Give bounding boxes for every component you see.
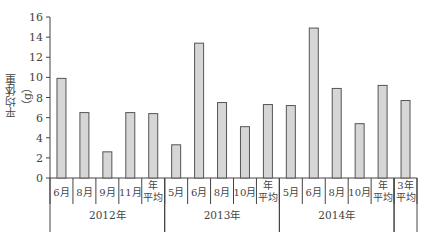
bar-chart: 02468101214166月8月9月11月年平均5月6月8月10月年平均5月6… [0, 0, 424, 241]
y-tick-label: 16 [29, 11, 43, 24]
x-category-label: 10月 [348, 187, 371, 198]
x-category-label: 5月 [283, 187, 299, 198]
x-category-label: 6月 [306, 187, 322, 198]
x-category-label: 8月 [329, 187, 345, 198]
x-group-label: 2013年 [204, 209, 241, 221]
bar [57, 78, 66, 178]
chart-canvas: 02468101214166月8月9月11月年平均5月6月8月10月年平均5月6… [0, 0, 424, 241]
x-category-label: 平均 [143, 192, 163, 203]
x-group-label: 2014年 [318, 209, 355, 221]
bar [240, 127, 249, 178]
y-tick-label: 14 [29, 31, 43, 44]
bar [401, 101, 410, 178]
x-category-label: 年 [263, 179, 273, 191]
bar [126, 113, 135, 178]
y-tick-label: 6 [36, 112, 43, 125]
x-category-label: 6月 [53, 187, 69, 198]
bar [263, 105, 272, 178]
bar [80, 113, 89, 178]
x-category-label: 平均 [258, 192, 278, 203]
x-category-label: 8月 [214, 187, 230, 198]
bar [355, 124, 364, 178]
x-category-label: 11月 [119, 187, 142, 198]
x-category-label: 6月 [191, 187, 207, 198]
x-category-label: 9月 [99, 187, 115, 198]
y-tick-label: 2 [36, 152, 43, 165]
x-category-label: 3年 [397, 179, 413, 191]
y-tick-label: 4 [36, 132, 43, 145]
y-tick-label: 0 [36, 172, 43, 185]
bar [218, 103, 227, 178]
x-category-label: 10月 [234, 187, 257, 198]
x-category-label: 5月 [168, 187, 184, 198]
y-axis-label: 平均体重（g） [4, 66, 32, 126]
bar [172, 145, 181, 178]
x-category-label: 平均 [373, 192, 393, 203]
bar [332, 88, 341, 178]
y-tick-label: 12 [29, 51, 43, 64]
x-category-label: 平均 [396, 192, 416, 203]
x-category-label: 年 [148, 179, 158, 191]
bar [378, 85, 387, 178]
x-category-label: 8月 [76, 187, 92, 198]
bar [149, 114, 158, 178]
x-group-label: 2012年 [89, 209, 126, 221]
x-category-label: 年 [378, 179, 388, 191]
bar [195, 43, 204, 178]
bar [103, 152, 112, 178]
bar [286, 106, 295, 178]
y-tick-label: 8 [36, 92, 43, 105]
bar [309, 28, 318, 178]
